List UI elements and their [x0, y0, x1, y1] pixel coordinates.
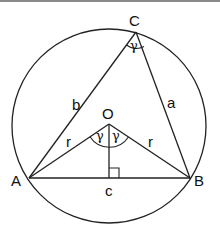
label-side-a: a	[167, 94, 176, 111]
right-angle-mark	[109, 168, 119, 178]
side-a	[136, 32, 190, 178]
label-radius-left: r	[66, 133, 71, 150]
label-gamma-O-left: γ	[96, 128, 104, 143]
label-radius-right: r	[148, 133, 153, 150]
label-gamma-O-right: γ	[112, 128, 120, 143]
label-O: O	[102, 105, 114, 122]
label-B: B	[194, 172, 204, 189]
label-A: A	[11, 172, 21, 189]
geometry-diagram: C A B O b a c r r γ γ γ	[0, 0, 220, 236]
label-C: C	[129, 12, 140, 29]
label-side-b: b	[72, 96, 80, 113]
label-side-c: c	[105, 182, 113, 199]
label-gamma-C: γ	[130, 38, 138, 53]
